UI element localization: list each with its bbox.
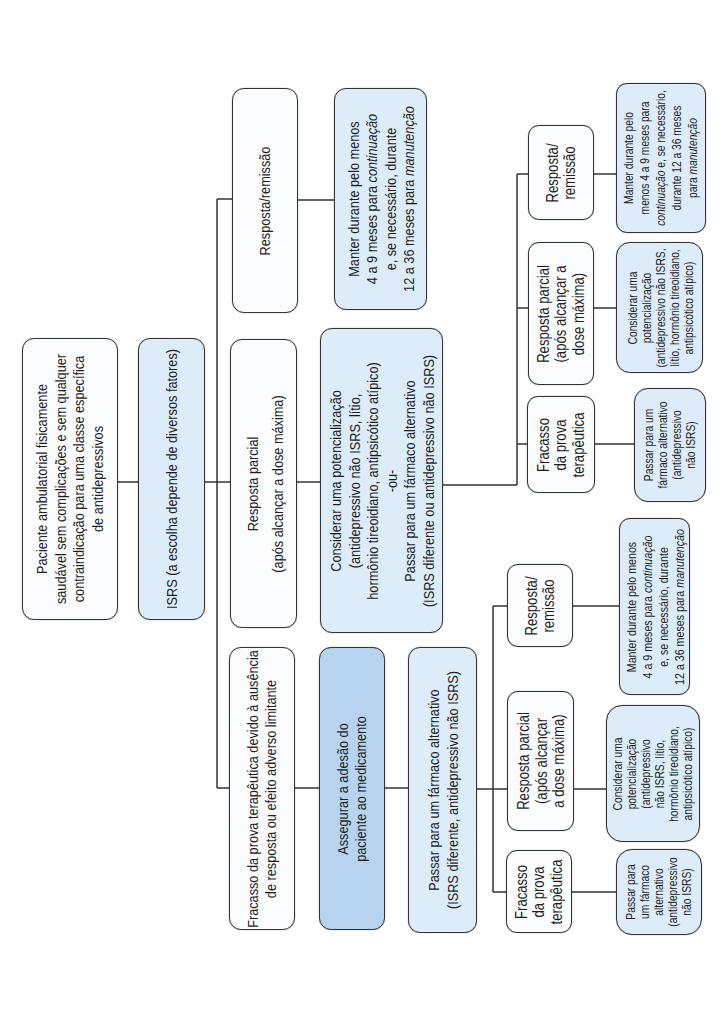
text-line: (antidepressivo bbox=[666, 857, 680, 927]
text-line: Considerar uma bbox=[625, 271, 639, 344]
text-line: Manter durante pelo bbox=[621, 112, 637, 204]
text-segment: e, se necessário, bbox=[654, 90, 668, 170]
text-line: durante 12 a 36 meses bbox=[669, 106, 685, 211]
italic-term: manutenção bbox=[399, 106, 416, 176]
node-ensure-adherence: Assegurar a adesão do paciente ao medica… bbox=[319, 647, 385, 930]
node-maintain-treatment: Manter durante pelo menos 4 a 9 meses pa… bbox=[334, 88, 427, 310]
text-line: (antidepressivo não ISRS, bbox=[653, 248, 667, 367]
text-line: Passar para um bbox=[642, 409, 656, 481]
node-label: Resposta/ remissão bbox=[507, 566, 573, 644]
italic-term: manutenção bbox=[686, 118, 700, 174]
node-label: Resposta parcial (após alcançar a dose m… bbox=[230, 341, 297, 625]
node-label: Fracasso da prova terapêutica bbox=[506, 852, 572, 930]
node-label: Considerar uma potencialização (antidepr… bbox=[606, 707, 700, 839]
text-segment: 12 a 36 meses para bbox=[671, 587, 686, 684]
node-label: Resposta/remissão bbox=[232, 90, 298, 310]
text-line: e, se necessário, durante bbox=[655, 547, 671, 667]
text-line: 12 a 36 meses para manutenção bbox=[671, 529, 687, 685]
text-line: (após alcançar a dose máxima) bbox=[264, 395, 289, 572]
text-segment: 4 a 9 meses para bbox=[639, 593, 654, 678]
text-line: de antidepressivos bbox=[89, 426, 108, 532]
text-line: (ISRS diferente, antidepressivo não ISRS… bbox=[443, 671, 462, 909]
text-line: da prova bbox=[552, 419, 570, 470]
text-line: ISRS (a escolha depende de diversos fato… bbox=[162, 349, 181, 609]
node-b-maintain-treatment: Manter durante pelo menos 4 a 9 meses pa… bbox=[619, 518, 690, 695]
text-line: Resposta/remissão bbox=[256, 146, 275, 255]
text-line: da prova bbox=[530, 866, 548, 917]
text-line: para manutenção bbox=[685, 118, 701, 198]
text-line: potencialização bbox=[625, 738, 639, 809]
text-line: Passar para um fármaco alternativo bbox=[424, 689, 443, 890]
text-line: antipsicótico atípico) bbox=[681, 261, 695, 354]
node-b-augment: Considerar uma potencialização (antidepr… bbox=[606, 705, 700, 842]
text-line: lítio, hormônio tireoidiano, bbox=[667, 249, 681, 366]
text-line: e, se necessário, durante bbox=[381, 128, 400, 271]
italic-term: continuação bbox=[362, 114, 379, 183]
text-line: não ISRS) bbox=[684, 421, 698, 468]
node-a-response-remission: Resposta/ remissão bbox=[528, 125, 594, 220]
text-line: Resposta parcial bbox=[239, 436, 264, 531]
node-label: ISRS (a escolha depende de diversos fato… bbox=[138, 340, 205, 617]
text-line: remissão bbox=[540, 579, 558, 632]
text-line: fármaco alternativo bbox=[656, 401, 670, 488]
text-line: Resposta/ bbox=[523, 576, 541, 635]
text-line: (após alcançar bbox=[532, 718, 550, 804]
text-line: 12 a 36 meses para manutenção bbox=[399, 106, 418, 292]
node-b-switch: Passar para um fármaco alternativo (anti… bbox=[616, 849, 702, 935]
node-b-partial-response: Resposta parcial (após alcançar a dose m… bbox=[507, 691, 574, 831]
text-line: Fracasso da prova terapêutica devido à a… bbox=[244, 650, 263, 928]
node-label: Fracasso da prova terapêutica bbox=[527, 398, 595, 490]
text-line: a dose máxima) bbox=[549, 714, 567, 807]
node-label: Passar para um fármaco alternativo (anti… bbox=[634, 390, 706, 499]
text-line: hormônio tireoidiano, bbox=[667, 726, 681, 822]
text-line: Considerar uma potencialização bbox=[326, 390, 345, 572]
text-line: Assegurar a adesão do bbox=[334, 723, 353, 854]
node-response-remission: Resposta/remissão bbox=[232, 88, 298, 313]
node-label: Resposta/ remissão bbox=[528, 127, 594, 217]
text-segment: 12 a 36 meses para bbox=[399, 176, 416, 292]
text-line: 4 a 9 meses para continuação bbox=[639, 535, 655, 678]
text-line: continuação e, se necessário, bbox=[653, 90, 669, 226]
text-line: (antidepressivo bbox=[639, 739, 653, 809]
text-line: (antidepressivo bbox=[670, 410, 684, 480]
text-line: Fracasso bbox=[535, 418, 553, 472]
text-line: não ISRS, lítio, bbox=[653, 739, 667, 807]
node-a-augment: Considerar uma potencialização (antidepr… bbox=[616, 242, 703, 373]
text-line: contraindicação para uma classe específi… bbox=[70, 356, 89, 603]
text-line: (após alcançar a bbox=[552, 265, 570, 362]
text-line: menos 4 a 9 meses para bbox=[637, 102, 653, 215]
node-patient-profile: Paciente ambulatorial fisicamente saudáv… bbox=[22, 338, 118, 620]
node-label: Passar para um fármaco alternativo (ISRS… bbox=[408, 649, 477, 930]
text-line: remissão bbox=[561, 146, 579, 199]
text-line: Considerar uma bbox=[611, 737, 625, 810]
text-line: Passar para um fármaco alternativo bbox=[400, 380, 419, 581]
text-line: antipsicótico atípico) bbox=[681, 727, 695, 820]
text-line: hormônio tireoidiano, antipsicótico atíp… bbox=[363, 362, 382, 599]
node-label: Manter durante pelo menos 4 a 9 meses pa… bbox=[619, 520, 690, 692]
text-segment: 4 a 9 meses para bbox=[362, 182, 379, 284]
node-b-response-remission: Resposta/ remissão bbox=[507, 564, 573, 647]
text-line: alternativo bbox=[652, 868, 666, 915]
node-b-failure: Fracasso da prova terapêutica bbox=[506, 850, 572, 933]
text-line: -ou- bbox=[382, 469, 401, 492]
node-label: Resposta parcial (após alcançar a dose m… bbox=[507, 693, 574, 828]
node-label: Manter durante pelo menos 4 a 9 meses pa… bbox=[334, 90, 427, 307]
text-line: dose máxima) bbox=[570, 272, 588, 354]
text-line: Manter durante pelo menos bbox=[344, 121, 363, 276]
text-line: (ISRS diferente ou antidepressivo não IS… bbox=[419, 354, 438, 606]
node-label: Considerar uma potencialização (antidepr… bbox=[320, 330, 443, 630]
node-a-maintain-treatment: Manter durante pelo menos 4 a 9 meses pa… bbox=[616, 83, 706, 233]
text-line: Resposta parcial bbox=[514, 712, 532, 810]
node-a-failure: Fracasso da prova terapêutica bbox=[527, 396, 595, 493]
text-line: paciente ao medicamento bbox=[352, 716, 371, 862]
text-line: Paciente ambulatorial fisicamente bbox=[33, 384, 52, 574]
text-line: saudável sem complicações e sem qualquer bbox=[52, 354, 71, 604]
node-label: Considerar uma potencialização (antidepr… bbox=[616, 244, 703, 370]
text-line: não ISRS) bbox=[680, 868, 694, 915]
text-line: (antidepressivo não ISRS, lítio, bbox=[345, 393, 364, 568]
text-line: um fármaco bbox=[638, 865, 652, 919]
text-line: Resposta/ bbox=[544, 143, 562, 202]
node-label: Assegurar a adesão do paciente ao medica… bbox=[319, 649, 385, 927]
text-line: 4 a 9 meses para continuação bbox=[362, 114, 381, 284]
text-line: Resposta parcial bbox=[535, 265, 553, 363]
